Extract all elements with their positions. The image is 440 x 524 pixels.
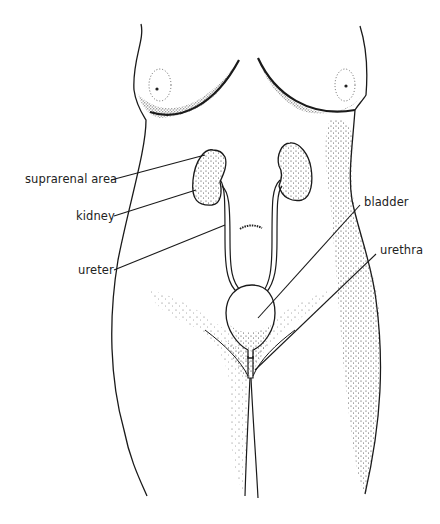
- navel: [240, 225, 262, 229]
- leg-inner-right: [251, 378, 258, 498]
- label-suprarenal-area: suprarenal area: [25, 172, 117, 186]
- body-outline-left: [112, 24, 147, 496]
- nipple-left: [155, 87, 158, 90]
- anatomy-illustration: [0, 0, 440, 524]
- flank-shading-right: [325, 119, 380, 494]
- leader-ureter: [114, 225, 225, 270]
- label-ureter: ureter: [78, 263, 114, 277]
- kidney-right: [278, 143, 312, 201]
- label-bladder: bladder: [364, 195, 409, 209]
- areola-left: [149, 69, 171, 101]
- ureter-right-inner: [266, 186, 282, 293]
- nipple-right: [344, 84, 347, 87]
- label-kidney: kidney: [76, 209, 115, 223]
- breast-left-shadow: [138, 60, 239, 118]
- leader-suprarenal-area: [111, 155, 205, 180]
- urinary-system-diagram: suprarenal area kidney ureter bladder ur…: [0, 0, 440, 524]
- kidney-left: [193, 150, 226, 205]
- ureter-left: [220, 180, 238, 293]
- label-urethra: urethra: [380, 243, 423, 257]
- leader-kidney: [114, 190, 196, 216]
